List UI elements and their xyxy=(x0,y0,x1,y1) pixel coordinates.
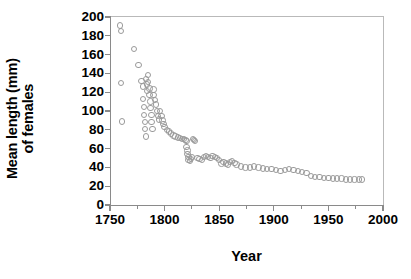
x-axis-tick-label: 1850 xyxy=(189,213,249,227)
y-axis-tick-label: 60 xyxy=(60,142,104,156)
y-axis-tick-label: 140 xyxy=(60,66,104,80)
data-point xyxy=(119,118,125,124)
data-point xyxy=(149,126,155,132)
x-axis-minor-tick xyxy=(137,205,138,209)
x-axis-tick xyxy=(219,205,220,211)
x-axis-minor-tick xyxy=(301,205,302,209)
y-axis-tick xyxy=(105,129,110,130)
data-point xyxy=(141,112,147,118)
y-axis-tick xyxy=(105,148,110,149)
x-axis-tick xyxy=(273,205,274,211)
x-axis-tick-label: 1900 xyxy=(244,213,304,227)
y-axis-tick xyxy=(105,54,110,55)
data-point xyxy=(118,80,124,86)
y-axis-tick xyxy=(105,35,110,36)
plot-right-border xyxy=(383,16,384,206)
data-point xyxy=(143,133,149,139)
y-axis-tick xyxy=(105,73,110,74)
y-axis-title: Mean length (mm) of females xyxy=(5,19,36,219)
scatter-chart-figure: Mean length (mm) of females 020406080100… xyxy=(0,0,411,279)
y-axis-tick-label: 80 xyxy=(60,123,104,137)
y-axis-tick xyxy=(105,16,110,17)
y-axis-tick xyxy=(105,167,110,168)
y-axis-title-line-2: of females xyxy=(21,19,37,219)
y-axis-tick xyxy=(105,110,110,111)
x-axis-tick-label: 1950 xyxy=(298,213,358,227)
y-axis-tick-label: 200 xyxy=(60,10,104,24)
x-axis-tick-label: 2000 xyxy=(353,213,411,227)
x-axis-tick-label: 1800 xyxy=(135,213,195,227)
x-axis-tick xyxy=(382,205,383,211)
y-axis-tick-label: 100 xyxy=(60,104,104,118)
data-point xyxy=(142,126,148,132)
x-axis-minor-tick xyxy=(246,205,247,209)
y-axis-tick-label: 0 xyxy=(60,198,104,212)
y-axis-tick-label: 20 xyxy=(60,179,104,193)
data-point xyxy=(135,62,141,68)
x-axis-minor-tick xyxy=(355,205,356,209)
x-axis-title: Year xyxy=(110,248,383,264)
y-tick-label-group: 020406080100120140160180200 xyxy=(56,0,104,220)
y-axis-tick-label: 120 xyxy=(60,85,104,99)
data-point xyxy=(153,101,159,107)
y-axis-tick-label: 180 xyxy=(60,29,104,43)
x-axis-tick-label: 1750 xyxy=(80,213,140,227)
y-axis-title-line-1: Mean length (mm) xyxy=(5,19,21,219)
y-axis-tick-label: 40 xyxy=(60,160,104,174)
data-point xyxy=(140,96,146,102)
x-axis-minor-tick xyxy=(191,205,192,209)
y-axis-tick xyxy=(105,92,110,93)
y-axis-tick-label: 160 xyxy=(60,48,104,62)
x-axis-tick xyxy=(328,205,329,211)
x-axis-tick xyxy=(109,205,110,211)
y-axis-tick xyxy=(105,186,110,187)
x-axis-tick xyxy=(164,205,165,211)
